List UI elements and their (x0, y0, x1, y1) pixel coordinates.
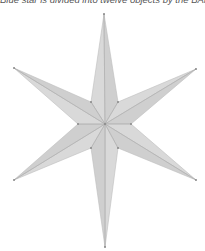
vertex-point (104, 123, 106, 125)
vertex-point (90, 101, 92, 103)
segment-divider-line (105, 124, 196, 180)
vertex-point (130, 123, 132, 125)
vertex-point (13, 67, 15, 69)
vertex-point (195, 179, 197, 181)
vertex-point (77, 123, 79, 125)
segment-divider-line (105, 69, 196, 124)
vertex-point (103, 13, 105, 15)
segment-divider-line (14, 68, 105, 124)
vertex-point (117, 101, 119, 103)
vertex-point (104, 246, 106, 248)
vertex-point (117, 147, 119, 149)
vertex-point (90, 147, 92, 149)
vertex-point (13, 179, 15, 181)
segmented-star-diagram (0, 0, 205, 251)
vertex-point (195, 68, 197, 70)
